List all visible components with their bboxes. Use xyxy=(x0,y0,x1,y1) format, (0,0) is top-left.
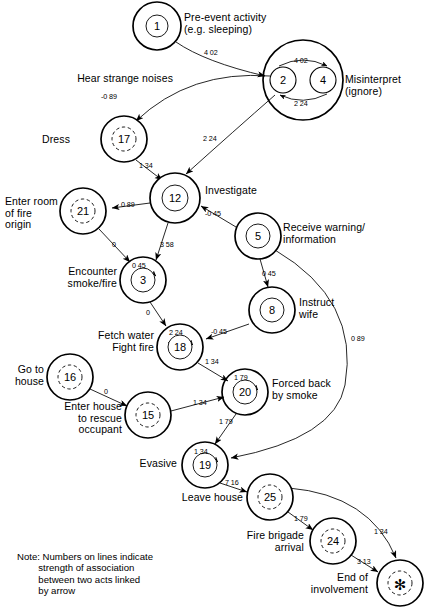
edge-n2-n12 xyxy=(186,95,275,174)
label-node-16: Go to house xyxy=(0,364,44,387)
label-node-5: Receive warning/ information xyxy=(283,222,365,245)
node-20-num: 20 xyxy=(239,386,251,398)
node-1-num: 1 xyxy=(154,20,160,32)
edge-weight-n2-n17: -0 89 xyxy=(101,92,117,101)
node-end[interactable]: ✻ xyxy=(377,560,423,606)
label-node-25: Leave house xyxy=(177,492,243,504)
label-node-end: End of involvement xyxy=(287,572,368,595)
edge-weight-n17-n12: 1 34 xyxy=(139,161,153,170)
edge-weight-n2-n12: 2 24 xyxy=(203,134,217,143)
edge-weight-n25-n24: 1 79 xyxy=(294,514,308,523)
node-21[interactable]: 21 xyxy=(60,188,106,234)
label-node-8: Instruct wife xyxy=(299,297,334,320)
edge-weight-n3-self: 0 45 xyxy=(132,261,146,270)
edge-weight-n5-n19: 0 89 xyxy=(351,334,365,343)
edge-weight-n25-nast: 1 34 xyxy=(374,527,388,536)
node-5-num: 5 xyxy=(255,230,261,242)
label-node-1: Pre-event activity (e.g. sleeping) xyxy=(184,12,266,35)
node-8[interactable]: 8 xyxy=(249,287,295,333)
edge-n3-n18 xyxy=(150,302,166,326)
node-12-num: 12 xyxy=(169,192,181,204)
edge-weight-n15-n20: 1 34 xyxy=(193,398,207,407)
edge-weight-n18-n20: 1 34 xyxy=(205,357,219,366)
label-node-4: Misinterpret (ignore) xyxy=(345,74,401,97)
node-15[interactable]: 15 xyxy=(125,392,171,438)
edge-weight-n19-self: 1 34 xyxy=(194,447,208,456)
edge-weight-n19-n25: 7 16 xyxy=(225,478,239,487)
label-node-18: Fetch water Fight fire xyxy=(83,330,154,353)
edge-weight-n8-n18: -0 45 xyxy=(211,327,227,336)
edge-n5-n19 xyxy=(231,250,347,458)
label-node-12: Investigate xyxy=(205,185,257,197)
node-8-num: 8 xyxy=(269,304,275,316)
edge-n1-n2 xyxy=(176,42,265,76)
edge-weight-n12-n3: 3 58 xyxy=(160,240,174,249)
label-node-3: Encounter smoke/fire xyxy=(37,266,117,289)
node-21-num: 21 xyxy=(77,205,89,217)
diagram-canvas: 1 2 4 17 12 xyxy=(0,0,430,607)
node-19-num: 19 xyxy=(199,459,211,471)
node-24[interactable]: 24 xyxy=(310,518,356,564)
edge-weight-n16-n15: 0 xyxy=(104,387,108,396)
label-node-2: Hear strange noises xyxy=(62,73,173,85)
node-16[interactable]: 16 xyxy=(47,354,93,400)
node-2[interactable]: 2 xyxy=(270,67,296,93)
label-node-17: Dress xyxy=(20,134,70,146)
edge-weight-n20-self: 1 79 xyxy=(234,373,248,382)
node-12[interactable]: 12 xyxy=(150,173,200,223)
node-4-num: 4 xyxy=(320,74,326,86)
edge-weight-n1-n2: 4 02 xyxy=(204,48,218,57)
edge-weight-n20-n19: 1 79 xyxy=(219,417,233,426)
edge-weight-n2-n4: 4 02 xyxy=(294,56,308,65)
node-25[interactable]: 25 xyxy=(247,474,293,520)
edge-weight-n12-n21: 0 89 xyxy=(121,200,135,209)
edge-weight-n18-self: 2 24 xyxy=(169,328,183,337)
label-node-21: Enter room of fire origin xyxy=(5,196,58,231)
label-node-15: Enter house to rescue occupant xyxy=(48,401,122,436)
diagram-note: Note: Numbers on lines indicate strength… xyxy=(17,551,153,597)
node-1[interactable]: 1 xyxy=(133,2,181,50)
node-24-num: 24 xyxy=(327,535,339,547)
node-25-num: 25 xyxy=(264,491,276,503)
node-end-num: ✻ xyxy=(394,576,407,593)
edge-weight-n21-n3: 0 xyxy=(112,240,116,249)
node-3-num: 3 xyxy=(140,274,146,286)
label-node-20: Forced back by smoke xyxy=(272,378,331,401)
edge-weight-n5-n8: 0 45 xyxy=(262,269,276,278)
edge-weight-n24-nast: 3 13 xyxy=(357,557,371,566)
node-2-num: 2 xyxy=(280,74,286,86)
edge-weight-n5-n12: -0 45 xyxy=(205,209,221,218)
edge-weight-n4-n2: 2 24 xyxy=(294,99,308,108)
edge-weight-n3-n18: 0 xyxy=(146,308,150,317)
node-15-num: 15 xyxy=(142,409,154,421)
label-node-24: Fire brigade arrival xyxy=(232,530,304,553)
node-18-num: 18 xyxy=(174,341,186,353)
label-node-19: Evasive xyxy=(133,458,177,470)
node-16-num: 16 xyxy=(64,371,76,383)
node-17-num: 17 xyxy=(118,133,130,145)
node-4[interactable]: 4 xyxy=(310,67,336,93)
node-5[interactable]: 5 xyxy=(235,213,281,259)
node-17[interactable]: 17 xyxy=(101,116,147,162)
